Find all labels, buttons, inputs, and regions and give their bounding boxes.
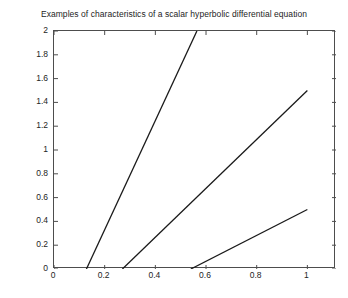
figure-canvas: Examples of characteristics of a scalar … [0, 0, 348, 298]
x-tick-label: 0 [33, 271, 73, 280]
x-tick-label: 1 [286, 271, 326, 280]
x-tick-label: 0.8 [236, 271, 276, 280]
x-tick-label: 0.6 [185, 271, 225, 280]
x-tick-label: 0.2 [84, 271, 124, 280]
x-axis-tick-labels: 00.20.40.60.81 [0, 0, 348, 298]
x-tick-label: 0.4 [134, 271, 174, 280]
